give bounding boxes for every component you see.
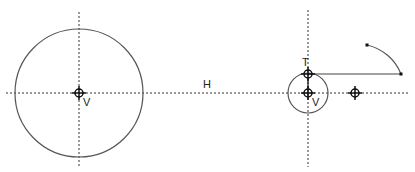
arc-start-point[interactable] — [366, 44, 369, 47]
arc[interactable] — [367, 45, 401, 74]
label-right-center: V — [312, 96, 320, 108]
drawing-canvas: V V T H — [0, 0, 415, 172]
label-top-point: T — [302, 56, 309, 68]
arc-end-point[interactable] — [400, 73, 403, 76]
label-horizontal-axis: H — [203, 78, 211, 90]
label-left-center: V — [83, 96, 91, 108]
extra-point-marker[interactable] — [348, 86, 362, 100]
tangent-point-marker[interactable] — [301, 67, 315, 81]
